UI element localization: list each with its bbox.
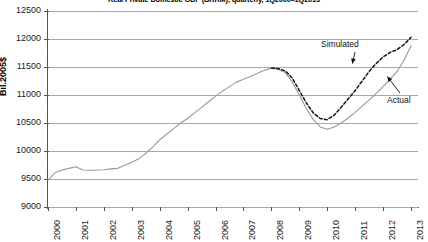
chart-figure: Real Private Domestic GDP (BRRM), quarte… xyxy=(0,0,428,242)
series-layer xyxy=(0,0,428,242)
series-line-actual xyxy=(48,46,411,180)
annotation-arrowhead-simulated xyxy=(351,58,356,63)
annotation-label-actual: Actual xyxy=(387,95,411,105)
annotation-label-simulated: Simulated xyxy=(321,39,359,49)
